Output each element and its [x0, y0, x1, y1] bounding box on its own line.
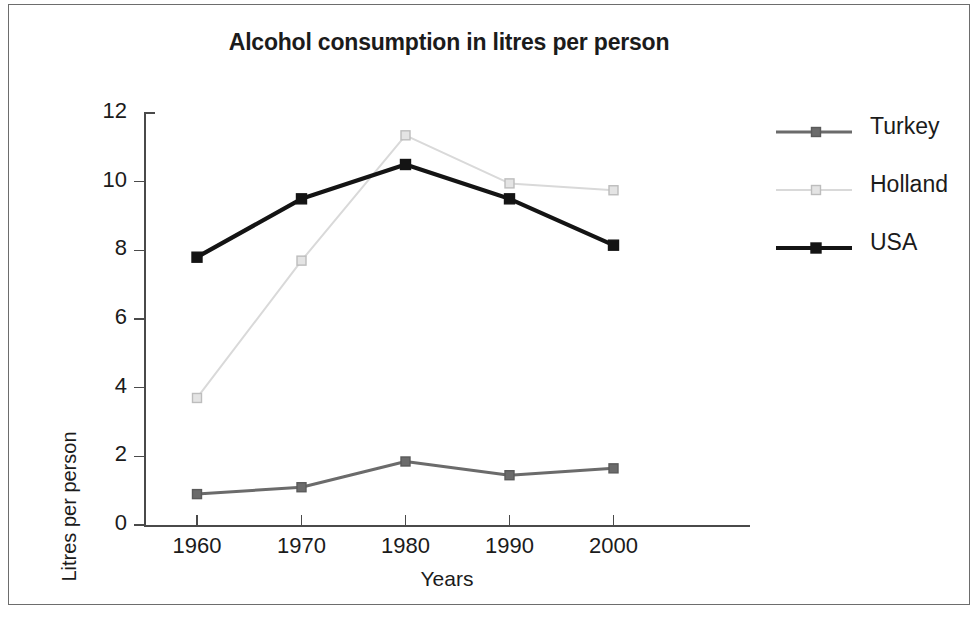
- marker-holland-1990: [505, 179, 514, 188]
- x-tick-label-1980: 1980: [361, 533, 451, 559]
- y-tick-label-10: 10: [81, 167, 127, 193]
- legend-symbol-turkey: [774, 119, 852, 145]
- marker-usa-1980: [401, 160, 411, 170]
- x-tick-label-2000: 2000: [569, 533, 659, 559]
- marker-holland-1970: [297, 256, 306, 265]
- legend-item-usa[interactable]: USA: [774, 231, 974, 261]
- marker-turkey-1960: [193, 490, 202, 499]
- marker-turkey-1980: [401, 457, 410, 466]
- x-tick-label-1990: 1990: [465, 533, 555, 559]
- line-usa: [197, 165, 614, 258]
- y-tick-label-4: 4: [81, 373, 127, 399]
- marker-holland-1960: [193, 393, 202, 402]
- y-tick-label-12: 12: [81, 98, 127, 124]
- marker-usa-1970: [297, 194, 307, 204]
- legend-item-holland[interactable]: Holland: [774, 173, 974, 203]
- legend-label-turkey: Turkey: [870, 113, 939, 140]
- x-tick-label-1960: 1960: [152, 533, 242, 559]
- chart-title: Alcohol consumption in litres per person: [129, 29, 769, 56]
- marker-usa-1960: [192, 252, 202, 262]
- marker-holland-2000: [609, 186, 618, 195]
- marker-turkey-1990: [505, 471, 514, 480]
- y-tick-label-0: 0: [81, 510, 127, 536]
- marker-turkey-1970: [297, 483, 306, 492]
- marker-usa-1990: [505, 194, 515, 204]
- x-axis-line: [144, 525, 750, 527]
- legend-item-turkey[interactable]: Turkey: [774, 115, 974, 145]
- y-tick-label-2: 2: [81, 441, 127, 467]
- legend-label-holland: Holland: [870, 171, 948, 198]
- x-tick-label-1970: 1970: [257, 533, 347, 559]
- series-holland: [193, 131, 619, 403]
- plot-area: [144, 113, 749, 525]
- chart-frame: Alcohol consumption in litres per person…: [8, 4, 970, 605]
- legend-label-usa: USA: [870, 229, 917, 256]
- y-tick-label-8: 8: [81, 235, 127, 261]
- legend-symbol-usa: [774, 235, 852, 261]
- y-axis-title: Litres per person: [58, 397, 81, 617]
- y-tick-label-6: 6: [81, 304, 127, 330]
- legend-symbol-holland: [774, 177, 852, 203]
- series-turkey: [193, 457, 619, 499]
- marker-holland-1980: [401, 131, 410, 140]
- marker-turkey-2000: [609, 464, 618, 473]
- line-holland: [197, 135, 614, 398]
- series-usa: [192, 160, 619, 263]
- x-axis-title: Years: [144, 567, 750, 591]
- marker-usa-2000: [609, 240, 619, 250]
